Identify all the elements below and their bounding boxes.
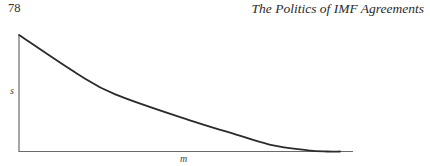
series-layer: [19, 35, 340, 152]
y-axis-label: s: [10, 85, 14, 96]
x-axis-label: m: [180, 153, 187, 164]
axes: [19, 35, 354, 152]
figure-chart: s m: [0, 0, 430, 166]
curve-series-0: [19, 35, 340, 152]
